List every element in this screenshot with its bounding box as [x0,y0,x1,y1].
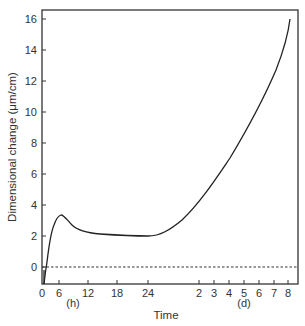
dimensional-change-chart: 0246810121416 061218242345678 Dimensiona… [0,0,305,326]
hours-unit-label: (h) [66,297,79,309]
y-tick-label: 8 [31,137,37,149]
data-curve [44,19,290,284]
y-tick-label: 16 [25,13,37,25]
y-tick-label: 4 [31,199,37,211]
x-tick-label: 7 [271,287,277,299]
days-unit-label: (d) [237,297,250,309]
y-axis-title: Dimensional change (μm/cm) [6,72,18,222]
x-tick-label: 8 [285,287,291,299]
x-tick-label: 2 [196,287,202,299]
y-tick-label: 10 [25,106,37,118]
y-tick-label: 2 [31,230,37,242]
x-tick-label: 3 [211,287,217,299]
x-tick-label: 6 [56,287,62,299]
x-axis-title: Time [153,309,178,321]
x-tick-label: 24 [142,287,154,299]
plot-frame [42,10,298,284]
x-tick-label: 6 [256,287,262,299]
y-tick-label: 14 [25,44,37,56]
y-tick-label: 6 [31,168,37,180]
y-tick-label: 12 [25,75,37,87]
x-tick-label: 4 [226,287,232,299]
y-axis-ticks: 0246810121416 [25,13,46,273]
y-tick-label: 0 [31,261,37,273]
x-tick-label: 0 [39,287,45,299]
x-tick-label: 12 [82,287,94,299]
x-tick-label: 18 [111,287,123,299]
